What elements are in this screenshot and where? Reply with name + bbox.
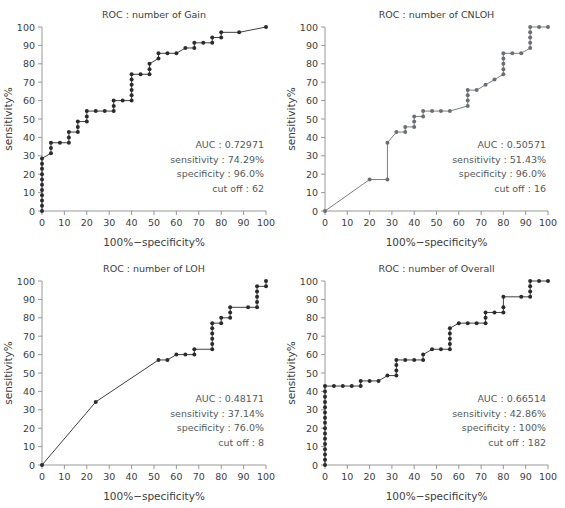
roc-data-point xyxy=(501,295,505,299)
roc-data-point xyxy=(430,347,434,351)
x-tick-label: 20 xyxy=(364,471,376,482)
x-tick-label: 90 xyxy=(238,471,250,482)
roc-data-point xyxy=(130,72,134,76)
roc-data-point xyxy=(466,99,470,103)
y-tick-label: 50 xyxy=(23,114,35,125)
roc-data-point xyxy=(528,35,532,39)
roc-data-point xyxy=(323,400,327,404)
x-tick-label: 30 xyxy=(386,217,398,228)
panel-title: ROC : number of Gain xyxy=(102,9,206,20)
roc-data-point xyxy=(323,437,327,441)
roc-data-point xyxy=(112,99,116,103)
roc-data-point xyxy=(219,316,223,320)
roc-data-point xyxy=(130,83,134,87)
y-tick-label: 20 xyxy=(306,423,318,434)
roc-data-point xyxy=(255,300,259,304)
x-tick-label: 40 xyxy=(408,217,420,228)
roc-data-point xyxy=(323,405,327,409)
roc-data-point xyxy=(323,447,327,451)
roc-data-point xyxy=(385,178,389,182)
y-tick-label: 30 xyxy=(23,150,35,161)
roc-data-point xyxy=(210,347,214,351)
roc-data-point xyxy=(484,310,488,314)
roc-data-point xyxy=(139,72,143,76)
y-tick-label: 100 xyxy=(17,276,35,287)
y-tick-label: 30 xyxy=(306,150,318,161)
x-tick-label: 50 xyxy=(430,217,442,228)
roc-data-point xyxy=(501,310,505,314)
y-tick-label: 70 xyxy=(306,331,318,342)
roc-panel-roc-cnloh: ROC : number of CNLOH0102030405060708090… xyxy=(283,0,565,254)
y-tick-label: 80 xyxy=(23,312,35,323)
roc-data-point xyxy=(448,109,452,113)
cutoff-annotation: cut off : 8 xyxy=(218,437,264,448)
roc-data-point xyxy=(237,30,241,34)
y-tick-label: 70 xyxy=(23,331,35,342)
roc-data-point xyxy=(323,416,327,420)
y-tick-label: 50 xyxy=(306,368,318,379)
roc-data-point xyxy=(228,305,232,309)
roc-data-point xyxy=(40,463,44,467)
roc-data-point xyxy=(49,151,53,155)
x-tick-label: 0 xyxy=(39,217,45,228)
roc-data-point xyxy=(430,109,434,113)
roc-data-point xyxy=(255,305,259,309)
roc-data-point xyxy=(323,458,327,462)
roc-data-point xyxy=(148,62,152,66)
roc-data-point xyxy=(421,358,425,362)
x-tick-label: 60 xyxy=(453,471,465,482)
cutoff-annotation: cut off : 182 xyxy=(488,437,546,448)
roc-data-point xyxy=(130,99,134,103)
roc-data-point xyxy=(49,146,53,150)
x-tick-label: 90 xyxy=(520,471,532,482)
roc-data-point xyxy=(174,353,178,357)
roc-data-point xyxy=(192,41,196,45)
roc-data-point xyxy=(210,342,214,346)
roc-data-point xyxy=(228,316,232,320)
x-tick-label: 100 xyxy=(257,217,275,228)
y-axis-label: sensitivity% xyxy=(285,87,297,150)
roc-data-point xyxy=(76,120,80,124)
roc-data-point xyxy=(519,295,523,299)
roc-data-point xyxy=(394,358,398,362)
y-tick-label: 20 xyxy=(23,423,35,434)
roc-data-point xyxy=(439,347,443,351)
roc-data-point xyxy=(210,337,214,341)
x-tick-label: 40 xyxy=(408,471,420,482)
roc-data-point xyxy=(466,93,470,97)
roc-data-point xyxy=(49,141,53,145)
roc-data-point xyxy=(368,178,372,182)
sensitivity-annotation: sensitivity : 37.14% xyxy=(170,408,264,419)
roc-data-point xyxy=(76,130,80,134)
roc-data-point xyxy=(228,310,232,314)
roc-data-point xyxy=(528,284,532,288)
y-tick-label: 70 xyxy=(23,77,35,88)
roc-data-point xyxy=(421,109,425,113)
roc-data-point xyxy=(528,289,532,293)
roc-data-point xyxy=(492,78,496,82)
x-tick-label: 50 xyxy=(148,471,160,482)
x-tick-label: 60 xyxy=(170,471,182,482)
roc-data-point xyxy=(394,368,398,372)
roc-data-point xyxy=(40,209,44,213)
roc-data-point xyxy=(385,374,389,378)
roc-data-point xyxy=(323,410,327,414)
roc-data-point xyxy=(403,130,407,134)
y-tick-label: 30 xyxy=(306,404,318,415)
x-tick-label: 80 xyxy=(215,217,227,228)
roc-data-point xyxy=(323,442,327,446)
roc-data-point xyxy=(165,51,169,55)
roc-data-point xyxy=(255,295,259,299)
roc-data-point xyxy=(246,305,250,309)
roc-data-point xyxy=(501,305,505,309)
roc-data-point xyxy=(421,353,425,357)
x-axis-label: 100%−specificity% xyxy=(386,236,488,248)
roc-data-point xyxy=(156,56,160,60)
y-tick-label: 100 xyxy=(17,22,35,33)
roc-data-point xyxy=(40,199,44,203)
x-tick-label: 10 xyxy=(58,217,70,228)
y-tick-label: 80 xyxy=(306,312,318,323)
roc-data-point xyxy=(359,384,363,388)
panel-title: ROC : number of Overall xyxy=(378,263,494,274)
y-tick-label: 20 xyxy=(306,169,318,180)
